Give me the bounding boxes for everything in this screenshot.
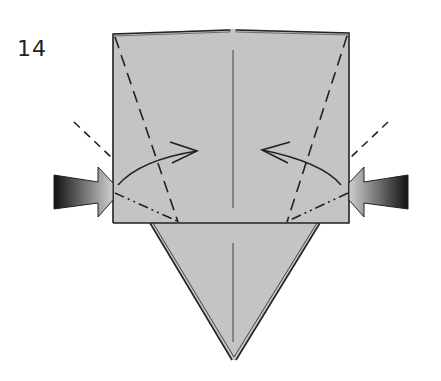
square-flap (113, 29, 349, 223)
fold-guide-right (350, 122, 388, 158)
triangle-point (150, 223, 320, 360)
push-arrow-left (54, 167, 113, 217)
origami-diagram (0, 0, 441, 381)
push-arrow-right (349, 167, 408, 217)
fold-guide-left (74, 122, 112, 158)
